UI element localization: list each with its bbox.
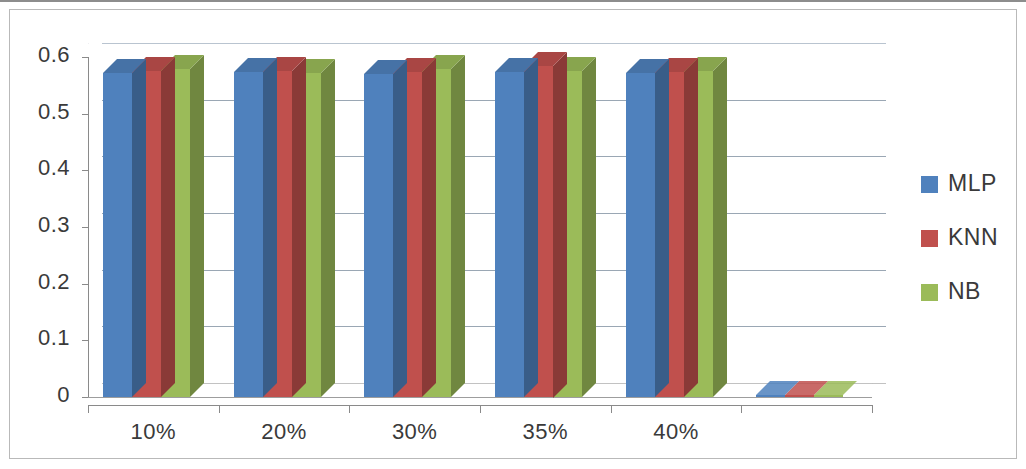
legend-label: MLP bbox=[948, 170, 997, 197]
bar-side-face bbox=[161, 57, 175, 397]
x-axis-tick bbox=[88, 405, 89, 413]
x-axis-tick bbox=[480, 405, 481, 413]
plot-area bbox=[88, 57, 872, 397]
bar-side-face bbox=[713, 57, 727, 397]
bar-side-face bbox=[132, 59, 146, 397]
legend-swatch-icon bbox=[921, 230, 938, 247]
bar-side-face bbox=[524, 58, 538, 397]
y-axis-tick-label: 0.1 bbox=[8, 325, 70, 351]
bar-front-face bbox=[103, 73, 132, 397]
legend-label: KNN bbox=[948, 224, 998, 251]
bar-side-face bbox=[190, 55, 204, 397]
bar-group bbox=[626, 57, 713, 397]
bar-front-face bbox=[626, 73, 655, 397]
x-axis-tick bbox=[741, 405, 742, 413]
bar-side-face bbox=[263, 58, 277, 397]
bar-side-face bbox=[582, 57, 596, 397]
bar-chart: 00.10.20.30.40.50.6 10%20%30%35%40% MLPK… bbox=[0, 0, 1026, 469]
bar[interactable] bbox=[785, 395, 814, 397]
x-axis-tick-label: 35% bbox=[480, 419, 611, 445]
x-axis-tick-label: 10% bbox=[88, 419, 219, 445]
bar-side-face bbox=[684, 58, 698, 397]
bar-side-face bbox=[655, 59, 669, 397]
bar-front-face bbox=[495, 72, 524, 397]
floor-right-edge bbox=[872, 383, 887, 398]
x-axis-tick-label: 20% bbox=[219, 419, 350, 445]
bar[interactable] bbox=[103, 73, 132, 397]
x-axis-tick bbox=[349, 405, 350, 413]
bar-side-face bbox=[422, 58, 436, 397]
bar-side-face bbox=[451, 55, 465, 397]
bar-group bbox=[364, 57, 451, 397]
x-axis-tick-label: 30% bbox=[349, 419, 480, 445]
y-axis-tick-label: 0 bbox=[8, 382, 70, 408]
bar[interactable] bbox=[364, 74, 393, 397]
bar-front-face bbox=[814, 395, 843, 397]
bar[interactable] bbox=[626, 73, 655, 397]
y-axis-tick-label: 0.5 bbox=[8, 99, 70, 125]
x-axis-tick-label: 40% bbox=[611, 419, 742, 445]
bar-group bbox=[756, 57, 843, 397]
bar-front-face bbox=[785, 395, 814, 397]
legend-swatch-icon bbox=[921, 176, 938, 193]
y-axis-tick-label: 0.2 bbox=[8, 269, 70, 295]
y-axis-tick-label: 0.4 bbox=[8, 155, 70, 181]
bar-front-face bbox=[756, 395, 785, 397]
chart-screenshot: 00.10.20.30.40.50.6 10%20%30%35%40% MLPK… bbox=[0, 0, 1026, 469]
x-axis-tick bbox=[872, 405, 873, 413]
bar-front-face bbox=[234, 72, 263, 397]
floor-front-edge bbox=[88, 397, 872, 398]
gridline-riser bbox=[88, 43, 103, 58]
legend-swatch-icon bbox=[921, 284, 938, 301]
bar[interactable] bbox=[756, 395, 785, 397]
bar-group bbox=[103, 57, 190, 397]
y-axis-tick-label: 0.6 bbox=[8, 42, 70, 68]
bar[interactable] bbox=[495, 72, 524, 397]
x-axis-tick bbox=[611, 405, 612, 413]
bar-front-face bbox=[364, 74, 393, 397]
bar-side-face bbox=[292, 57, 306, 397]
y-axis-tick-label: 0.3 bbox=[8, 212, 70, 238]
bar-side-face bbox=[321, 59, 335, 397]
bar-side-face bbox=[393, 60, 407, 397]
bar-side-face bbox=[553, 52, 567, 398]
x-axis-tick bbox=[219, 405, 220, 413]
bar-group bbox=[234, 57, 321, 397]
legend-label: NB bbox=[948, 278, 981, 305]
bar-group bbox=[495, 57, 582, 397]
gridline bbox=[102, 43, 886, 44]
bar[interactable] bbox=[814, 395, 843, 397]
bar[interactable] bbox=[234, 72, 263, 397]
